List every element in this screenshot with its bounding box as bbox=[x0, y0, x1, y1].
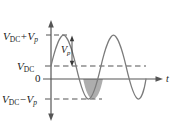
label-vdc-minus-vp: VDC−Vp bbox=[2, 94, 37, 106]
label-zero: 0 bbox=[35, 73, 41, 84]
negative-area-shading bbox=[83, 79, 103, 99]
vertical-axis-arrow-up bbox=[48, 20, 54, 28]
label-time-axis: t bbox=[166, 74, 169, 84]
label-vdc-plus-vp-v1: V bbox=[3, 30, 10, 42]
label-vdc: VDC bbox=[17, 61, 34, 73]
label-vdc-sub: DC bbox=[24, 65, 35, 74]
label-vdc-minus-vp-sub2: p bbox=[33, 98, 37, 107]
waveform-figure: VDC+Vp VDC 0 VDC−Vp Vp t bbox=[0, 0, 178, 131]
label-vdc-minus-vp-sub1: DC bbox=[9, 98, 20, 107]
amplitude-arrow-head-up bbox=[70, 36, 74, 42]
label-vdc-plus-vp: VDC+Vp bbox=[3, 31, 38, 43]
label-vdc-minus-vp-operator: − bbox=[19, 93, 26, 105]
label-vdc-v: V bbox=[17, 60, 24, 72]
label-amplitude-vp: Vp bbox=[61, 45, 71, 56]
label-amplitude-sub: p bbox=[67, 49, 70, 56]
time-axis-arrow bbox=[156, 76, 164, 82]
label-vdc-minus-vp-v1: V bbox=[2, 93, 9, 105]
vertical-axis-arrow-down bbox=[48, 114, 54, 122]
label-vdc-plus-vp-operator: + bbox=[20, 30, 27, 42]
label-vdc-plus-vp-sub1: DC bbox=[10, 35, 21, 44]
label-vdc-plus-vp-sub2: p bbox=[34, 35, 38, 44]
